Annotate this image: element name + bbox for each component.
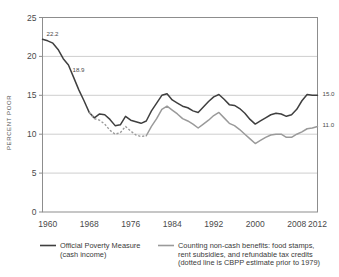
gridlines-group — [43, 18, 318, 174]
chart-canvas: 0510152025 19601968197619841992200020082… — [0, 0, 339, 277]
y-tick-label-10: 10 — [27, 129, 37, 139]
x-tick-label-2012: 2012 — [308, 219, 327, 229]
poverty-rate-chart: 0510152025 19601968197619841992200020082… — [0, 0, 339, 277]
series-group — [43, 39, 318, 143]
x-tick-label-1992: 1992 — [204, 219, 223, 229]
legend: Official Poverty Measure (cash income) C… — [40, 241, 320, 267]
x-tick-label-1968: 1968 — [80, 219, 99, 229]
y-tick-label-25: 25 — [27, 13, 37, 23]
x-axis-tick-labels: 19601968197619841992200020082012 — [38, 219, 327, 229]
tickmarks-group — [39, 18, 43, 213]
y-tick-label-0: 0 — [32, 207, 37, 217]
y-axis-tick-labels: 0510152025 — [27, 13, 37, 218]
y-tick-label-20: 20 — [27, 51, 37, 61]
legend-label-official-line-2: (cash income) — [60, 250, 106, 259]
legend-label-noncash-line-3: (dotted line is CBPP estimate prior to 1… — [178, 258, 320, 267]
x-tick-label-2008: 2008 — [287, 219, 306, 229]
x-tick-label-1960: 1960 — [38, 219, 57, 229]
y-tick-label-5: 5 — [32, 168, 37, 178]
y-tick-label-15: 15 — [27, 90, 37, 100]
x-tick-label-1976: 1976 — [121, 219, 140, 229]
data-label-15.0: 15.0 — [323, 90, 336, 97]
plot-frame — [43, 18, 318, 213]
data-label-11.0: 11.0 — [323, 121, 335, 128]
y-axis-title: PERCENT POOR — [6, 95, 12, 150]
x-tick-label-1984: 1984 — [163, 219, 182, 229]
x-tick-label-2000: 2000 — [246, 219, 265, 229]
series-line-noncash — [146, 106, 317, 143]
data-label-18.9: 18.9 — [72, 66, 85, 73]
series-line-official — [43, 39, 318, 125]
data-label-22.2: 22.2 — [47, 30, 60, 37]
